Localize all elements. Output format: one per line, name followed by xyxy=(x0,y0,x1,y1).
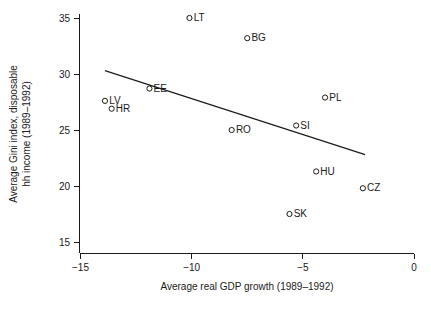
data-point-ee[interactable]: EE xyxy=(147,83,167,94)
y-axis-title: Average Gini index, disposable hh income… xyxy=(8,65,32,203)
scatter-plot-figure: 1520253035 −15−10−50 LTBGEELVHRPLROSIHUC… xyxy=(0,0,431,309)
plot-canvas: 1520253035 −15−10−50 LTBGEELVHRPLROSIHUC… xyxy=(0,0,431,309)
point-label: LT xyxy=(194,12,205,23)
y-tick-label: 30 xyxy=(59,69,71,80)
y-tick-label: 35 xyxy=(59,13,71,24)
point-marker[interactable] xyxy=(245,36,250,41)
data-point-si[interactable]: SI xyxy=(294,120,310,131)
point-label: RO xyxy=(236,124,251,135)
point-marker[interactable] xyxy=(187,15,192,20)
data-point-bg[interactable]: BG xyxy=(245,32,266,43)
data-point-hu[interactable]: HU xyxy=(314,166,335,177)
data-point-lt[interactable]: LT xyxy=(187,12,205,23)
point-marker[interactable] xyxy=(322,95,327,100)
point-marker[interactable] xyxy=(109,106,114,111)
data-point-pl[interactable]: PL xyxy=(322,92,341,103)
point-label: EE xyxy=(154,83,168,94)
point-marker[interactable] xyxy=(294,123,299,128)
point-label: HU xyxy=(320,166,334,177)
x-axis-group: −15−10−50 xyxy=(72,254,417,274)
point-marker[interactable] xyxy=(314,169,319,174)
point-marker[interactable] xyxy=(360,186,365,191)
x-tick-label: −10 xyxy=(183,262,200,273)
point-marker[interactable] xyxy=(147,86,152,91)
x-tick-label: 0 xyxy=(411,262,417,273)
x-axis-title: Average real GDP growth (1989–1992) xyxy=(160,281,333,292)
regression-line xyxy=(105,71,365,155)
point-label: CZ xyxy=(367,182,380,193)
data-points-group: LTBGEELVHRPLROSIHUCZSK xyxy=(102,12,380,219)
y-axis-group: 1520253035 xyxy=(59,13,80,254)
x-tick-label: −5 xyxy=(297,262,309,273)
y-tick-label: 20 xyxy=(59,181,71,192)
y-tick-label: 15 xyxy=(59,237,71,248)
point-marker[interactable] xyxy=(287,211,292,216)
data-point-ro[interactable]: RO xyxy=(229,124,251,135)
point-label: BG xyxy=(251,32,266,43)
point-label: SK xyxy=(294,208,308,219)
point-marker[interactable] xyxy=(229,127,234,132)
data-point-sk[interactable]: SK xyxy=(287,208,307,219)
point-marker[interactable] xyxy=(102,98,107,103)
y-tick-label: 25 xyxy=(59,125,71,136)
point-label: SI xyxy=(300,120,309,131)
point-label: HR xyxy=(116,103,130,114)
regression-line-segment xyxy=(105,71,365,155)
y-axis-ticks: 1520253035 xyxy=(59,13,80,248)
x-tick-label: −15 xyxy=(72,262,89,273)
y-axis-title-line-1: Average Gini index, disposable xyxy=(8,65,19,203)
x-axis-ticks: −15−10−50 xyxy=(72,254,417,274)
data-point-cz[interactable]: CZ xyxy=(360,182,380,193)
point-label: PL xyxy=(329,92,342,103)
y-axis-title-line-2: hh income (1989–1992) xyxy=(21,81,32,187)
